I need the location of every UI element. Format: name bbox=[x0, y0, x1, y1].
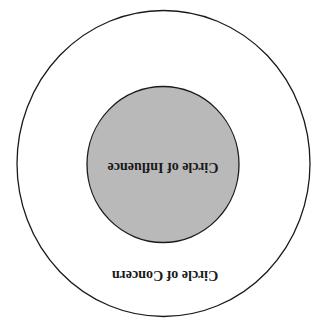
circle-of-concern-label: Circle of Concern bbox=[112, 268, 218, 283]
circle-of-influence-label: Circle of Influence bbox=[108, 160, 219, 175]
concern-influence-diagram: Circle of Influence Circle of Concern bbox=[0, 0, 324, 335]
